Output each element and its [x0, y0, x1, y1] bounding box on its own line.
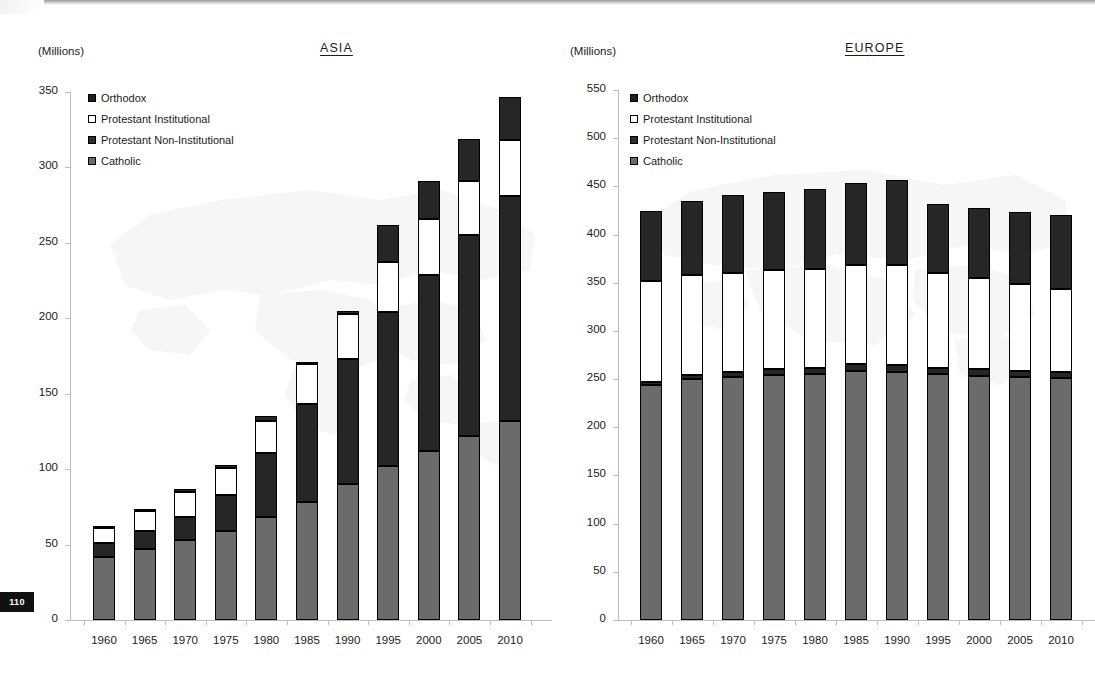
europe-segment-protestant-non-institutional-1980[interactable]: [804, 368, 826, 375]
europe-segment-protestant-institutional-2000[interactable]: [968, 278, 990, 370]
asia-segment-catholic-1985[interactable]: [296, 502, 318, 620]
europe-segment-orthodox-1980[interactable]: [804, 189, 826, 269]
asia-segment-protestant-institutional-2005[interactable]: [458, 181, 480, 235]
europe-segment-catholic-1970[interactable]: [722, 377, 744, 620]
asia-bar-1960[interactable]: [93, 526, 115, 620]
asia-segment-protestant-non-institutional-1985[interactable]: [296, 404, 318, 502]
asia-segment-protestant-institutional-1960[interactable]: [93, 528, 115, 543]
europe-segment-protestant-institutional-1990[interactable]: [886, 265, 908, 364]
asia-bar-1965[interactable]: [134, 510, 156, 620]
europe-bar-1995[interactable]: [927, 204, 949, 620]
europe-segment-protestant-institutional-1985[interactable]: [845, 265, 867, 363]
europe-bar-2005[interactable]: [1009, 212, 1031, 620]
europe-bar-2010[interactable]: [1050, 215, 1072, 620]
europe-segment-catholic-2000[interactable]: [968, 376, 990, 620]
europe-bar-1970[interactable]: [722, 195, 744, 620]
europe-segment-protestant-institutional-1995[interactable]: [927, 273, 949, 367]
europe-segment-protestant-non-institutional-1990[interactable]: [886, 365, 908, 373]
europe-segment-protestant-non-institutional-1970[interactable]: [722, 372, 744, 377]
europe-segment-orthodox-1970[interactable]: [722, 195, 744, 273]
europe-segment-protestant-non-institutional-1965[interactable]: [681, 375, 703, 379]
asia-segment-protestant-institutional-1965[interactable]: [134, 511, 156, 531]
europe-segment-orthodox-1985[interactable]: [845, 183, 867, 266]
europe-segment-protestant-non-institutional-2005[interactable]: [1009, 371, 1031, 377]
asia-segment-protestant-institutional-1970[interactable]: [174, 492, 196, 518]
asia-segment-catholic-1980[interactable]: [255, 517, 277, 620]
europe-segment-orthodox-1965[interactable]: [681, 201, 703, 275]
asia-segment-protestant-non-institutional-1990[interactable]: [337, 359, 359, 484]
europe-segment-protestant-non-institutional-1960[interactable]: [640, 382, 662, 385]
asia-segment-protestant-institutional-2000[interactable]: [418, 219, 440, 275]
europe-segment-orthodox-1960[interactable]: [640, 211, 662, 280]
asia-segment-protestant-non-institutional-2000[interactable]: [418, 275, 440, 452]
asia-segment-orthodox-1960[interactable]: [93, 526, 115, 528]
europe-bar-2000[interactable]: [968, 208, 990, 620]
europe-segment-protestant-institutional-1960[interactable]: [640, 281, 662, 382]
europe-segment-catholic-2010[interactable]: [1050, 378, 1072, 620]
europe-segment-orthodox-2005[interactable]: [1009, 212, 1031, 283]
asia-segment-catholic-2010[interactable]: [499, 421, 521, 620]
europe-bar-1980[interactable]: [804, 189, 826, 620]
europe-segment-protestant-non-institutional-2000[interactable]: [968, 369, 990, 376]
asia-segment-orthodox-1980[interactable]: [255, 416, 277, 421]
asia-segment-orthodox-1965[interactable]: [134, 509, 156, 511]
asia-bar-1985[interactable]: [296, 362, 318, 620]
asia-segment-protestant-non-institutional-2005[interactable]: [458, 235, 480, 436]
asia-segment-orthodox-2005[interactable]: [458, 139, 480, 181]
europe-segment-catholic-1965[interactable]: [681, 379, 703, 620]
asia-segment-protestant-institutional-1980[interactable]: [255, 421, 277, 453]
europe-segment-catholic-1980[interactable]: [804, 374, 826, 620]
europe-segment-protestant-institutional-1970[interactable]: [722, 273, 744, 372]
asia-segment-protestant-non-institutional-1980[interactable]: [255, 453, 277, 518]
asia-segment-catholic-1975[interactable]: [215, 531, 237, 620]
europe-bar-1985[interactable]: [845, 183, 867, 620]
europe-segment-protestant-non-institutional-2010[interactable]: [1050, 372, 1072, 378]
europe-bar-1965[interactable]: [681, 201, 703, 620]
europe-segment-protestant-non-institutional-1995[interactable]: [927, 368, 949, 375]
europe-segment-orthodox-2010[interactable]: [1050, 215, 1072, 288]
asia-bar-1970[interactable]: [174, 489, 196, 620]
asia-segment-protestant-non-institutional-1970[interactable]: [174, 517, 196, 540]
europe-bar-1990[interactable]: [886, 180, 908, 620]
europe-segment-protestant-non-institutional-1985[interactable]: [845, 364, 867, 372]
asia-segment-catholic-1995[interactable]: [377, 466, 399, 620]
europe-bar-1960[interactable]: [640, 211, 662, 620]
asia-bar-2000[interactable]: [418, 181, 440, 620]
asia-segment-catholic-1970[interactable]: [174, 540, 196, 620]
europe-segment-orthodox-1975[interactable]: [763, 192, 785, 270]
asia-segment-orthodox-1985[interactable]: [296, 362, 318, 364]
europe-segment-catholic-1975[interactable]: [763, 375, 785, 620]
europe-segment-catholic-1985[interactable]: [845, 371, 867, 620]
europe-segment-catholic-1990[interactable]: [886, 372, 908, 620]
asia-segment-orthodox-1975[interactable]: [215, 465, 237, 468]
europe-segment-catholic-1960[interactable]: [640, 385, 662, 620]
asia-segment-orthodox-2010[interactable]: [499, 97, 521, 141]
asia-segment-orthodox-2000[interactable]: [418, 181, 440, 219]
asia-bar-2010[interactable]: [499, 97, 521, 620]
asia-segment-protestant-non-institutional-1965[interactable]: [134, 531, 156, 549]
europe-segment-protestant-institutional-1965[interactable]: [681, 275, 703, 375]
asia-segment-catholic-1965[interactable]: [134, 549, 156, 620]
europe-segment-protestant-institutional-1980[interactable]: [804, 269, 826, 367]
europe-segment-orthodox-1995[interactable]: [927, 204, 949, 273]
asia-segment-catholic-1960[interactable]: [93, 557, 115, 620]
asia-segment-protestant-non-institutional-1960[interactable]: [93, 543, 115, 557]
asia-segment-protestant-institutional-2010[interactable]: [499, 140, 521, 196]
europe-segment-orthodox-2000[interactable]: [968, 208, 990, 278]
europe-segment-protestant-institutional-1975[interactable]: [763, 270, 785, 369]
asia-segment-catholic-2005[interactable]: [458, 436, 480, 620]
europe-segment-protestant-non-institutional-1975[interactable]: [763, 369, 785, 375]
asia-segment-protestant-non-institutional-1995[interactable]: [377, 312, 399, 466]
europe-segment-catholic-2005[interactable]: [1009, 377, 1031, 620]
europe-segment-protestant-institutional-2005[interactable]: [1009, 284, 1031, 372]
asia-bar-1990[interactable]: [337, 311, 359, 620]
europe-segment-protestant-institutional-2010[interactable]: [1050, 289, 1072, 373]
asia-segment-orthodox-1970[interactable]: [174, 489, 196, 492]
asia-segment-catholic-1990[interactable]: [337, 484, 359, 620]
asia-segment-protestant-non-institutional-1975[interactable]: [215, 495, 237, 531]
asia-segment-orthodox-1990[interactable]: [337, 311, 359, 314]
asia-bar-1975[interactable]: [215, 465, 237, 620]
asia-segment-orthodox-1995[interactable]: [377, 225, 399, 263]
asia-segment-protestant-non-institutional-2010[interactable]: [499, 196, 521, 421]
europe-segment-catholic-1995[interactable]: [927, 374, 949, 620]
